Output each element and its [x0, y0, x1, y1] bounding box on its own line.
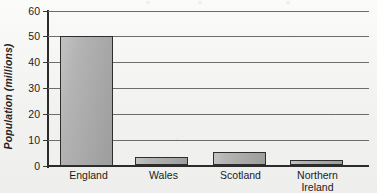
- scan-artifact: [110, 1, 310, 4]
- bar-england[interactable]: [60, 36, 113, 166]
- bar-chart-figure: Population (millions) 0 10 20 30 40 50 6…: [0, 0, 377, 193]
- gridline-60: [48, 11, 369, 12]
- x-label-northern-ireland: Northern Ireland: [263, 170, 372, 193]
- y-axis-title: Population (millions): [0, 0, 16, 193]
- bar-northern-ireland[interactable]: [290, 160, 343, 166]
- plot-area: [48, 11, 369, 166]
- bar-wales[interactable]: [135, 157, 188, 165]
- bar-scotland[interactable]: [213, 152, 266, 165]
